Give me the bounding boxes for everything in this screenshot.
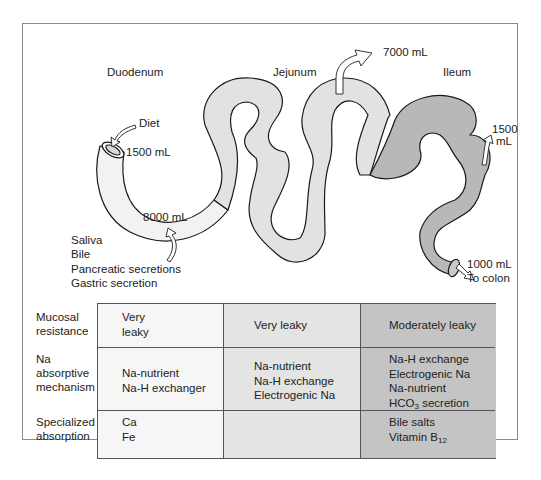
row-label-specialized-absorption: Specializedabsorption <box>36 415 95 443</box>
diet-volume: 1500 mL <box>126 145 171 159</box>
jejunum-absorbed-volume: 7000 mL <box>383 45 428 59</box>
duodenum-segment <box>97 146 228 241</box>
diet-arrow-icon <box>111 125 136 147</box>
jejunum-mucosal-resistance: Very leaky <box>254 318 307 333</box>
ileum-mucosal-resistance: Moderately leaky <box>389 318 476 333</box>
duodenum-specialized-absorption: CaFe <box>122 415 137 444</box>
row-divider <box>98 347 495 348</box>
ileum-absorbed-unit: mL <box>496 134 512 148</box>
jejunum-label: Jejunum <box>273 65 316 79</box>
secretion-source: Pancreatic secretions <box>71 262 181 276</box>
secretion-source: Gastric secretion <box>71 276 157 290</box>
colon-label: To colon <box>467 271 510 285</box>
duodenum-na-mechanism: Na-nutrientNa-H exchanger <box>122 366 206 395</box>
duodenum-label: Duodenum <box>107 65 163 79</box>
secretions-volume: 8000 mL <box>143 210 188 224</box>
duodenum-mucosal-resistance: Veryleaky <box>122 310 149 339</box>
ileum-label: Ileum <box>443 65 471 79</box>
row-label-na-mechanism: Naabsorptivemechanism <box>36 352 95 394</box>
jejunum-segment <box>204 78 390 262</box>
ileum-na-mechanism: Na-H exchange Electrogenic Na Na-nutrien… <box>389 352 470 414</box>
colon-volume: 1000 mL <box>467 257 512 271</box>
secretion-source: Saliva <box>71 233 102 247</box>
secretion-source: Bile <box>71 247 90 261</box>
row-label-mucosal-resistance: Mucosalresistance <box>36 310 88 338</box>
secretions-arrow-icon <box>166 228 176 262</box>
ileum-specialized-absorption: Bile salts Vitamin B12 <box>389 415 447 448</box>
diet-label: Diet <box>139 116 159 130</box>
jejunum-na-mechanism: Na-nutrientNa-H exchangeElectrogenic Na <box>254 359 335 403</box>
ileum-segment <box>370 96 490 275</box>
